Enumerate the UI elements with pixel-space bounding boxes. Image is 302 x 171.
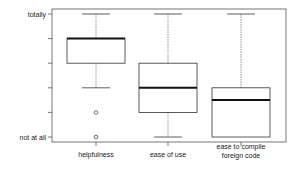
y-tick-label-bottom: not at all <box>20 134 47 141</box>
x-label-helpfulness: helpfulness <box>78 151 114 159</box>
plot-area <box>48 9 286 146</box>
box <box>67 39 125 64</box>
y-tick-label-top: totally <box>28 11 47 19</box>
x-label-ease-to-compile-line2: foreign code <box>222 152 261 160</box>
box <box>212 88 270 137</box>
outlier-point <box>94 135 98 139</box>
outlier-point <box>94 111 98 115</box>
x-label-ease-of-use: ease of use <box>150 151 186 158</box>
x-label-ease-to-compile-line1: ease to compile <box>216 143 265 151</box>
boxplot-chart: totally not at all helpfulness ease of u… <box>0 0 302 171</box>
